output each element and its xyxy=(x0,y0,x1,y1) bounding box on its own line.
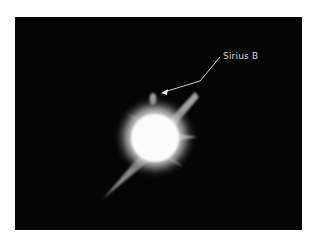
sirius-a-core xyxy=(131,114,179,162)
star-field xyxy=(15,17,302,230)
annotation-pointer-line xyxy=(164,57,220,92)
sirius-b-label: Sirius B xyxy=(223,51,258,61)
photo-frame: Sirius B xyxy=(15,17,302,230)
arrowhead-icon xyxy=(161,89,168,95)
